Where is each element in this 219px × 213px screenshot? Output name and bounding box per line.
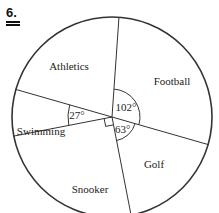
slice-label: Athletics: [49, 60, 89, 72]
slice-label: Snooker: [72, 183, 109, 195]
slice-label: Football: [154, 75, 191, 87]
slice-label: Swimming: [17, 125, 66, 137]
angle-label: 63°: [115, 123, 130, 135]
pie-chart: Football102°GolfSnooker27°SwimmingAthlet…: [0, 0, 219, 213]
angle-label: 27°: [69, 109, 84, 121]
slice-label: Golf: [144, 158, 165, 170]
angle-label: 102°: [115, 101, 136, 113]
